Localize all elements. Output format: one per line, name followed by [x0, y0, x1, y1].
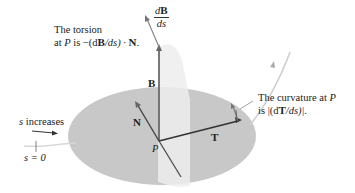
torsion-line-2: at P is −(dB/ds) · N.	[54, 36, 139, 49]
curvature-label: The curvature at P is |(dT/ds)|.	[258, 92, 336, 117]
s-increases-arrowhead	[52, 131, 58, 136]
point-p-label: P	[152, 143, 158, 155]
normal-label: N	[133, 116, 141, 129]
s-increases-label: s increases	[19, 116, 64, 128]
curvature-line-2: is |(dT/ds)|.	[258, 104, 336, 117]
torsion-label: The torsion at P is −(dB/ds) · N.	[54, 24, 139, 49]
curvature-line-1: The curvature at P	[258, 92, 336, 104]
dBds-label: dB ds	[154, 4, 169, 31]
curve-arrow	[270, 61, 275, 68]
tangent-label: T	[211, 131, 218, 144]
dBds-arrowhead	[145, 15, 150, 22]
s-zero-label: s = 0	[24, 152, 46, 164]
curvature-leader	[240, 101, 253, 109]
s-increases-arrow	[32, 131, 54, 133]
space-curve	[24, 143, 76, 147]
binormal-label: B	[148, 77, 155, 90]
torsion-line-1: The torsion	[54, 24, 139, 36]
